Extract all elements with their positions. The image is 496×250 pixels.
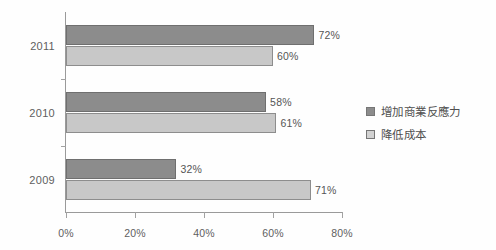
bar-value-label: 58%	[270, 96, 292, 108]
bar-value-label: 61%	[280, 117, 302, 129]
legend-item-0[interactable]: 增加商業反應力	[366, 103, 490, 119]
x-axis-tick	[342, 212, 343, 218]
category-group: 201172%60%	[66, 12, 342, 79]
legend-label: 增加商業反應力	[381, 103, 461, 119]
category-group: 200932%71%	[66, 146, 342, 213]
chart-legend: 增加商業反應力降低成本	[366, 103, 490, 149]
bar-value-label: 71%	[315, 184, 337, 196]
x-axis-tick-label: 20%	[124, 227, 146, 239]
bar-2010-series1[interactable]: 61%	[66, 113, 276, 133]
y-axis-category-label: 2009	[29, 174, 55, 186]
bar-2010-series0[interactable]: 58%	[66, 92, 266, 112]
bar-2009-series1[interactable]: 71%	[66, 180, 311, 200]
bar-value-label: 60%	[277, 50, 299, 62]
plot-area: 0%20%40%60%80%201172%60%201058%61%200932…	[65, 12, 342, 213]
legend-item-1[interactable]: 降低成本	[366, 126, 490, 142]
bar-value-label: 32%	[180, 163, 202, 175]
bar-2009-series0[interactable]: 32%	[66, 159, 176, 179]
x-axis-tick-label: 40%	[193, 227, 215, 239]
bar-2011-series1[interactable]: 60%	[66, 46, 273, 66]
x-axis-tick-label: 80%	[331, 227, 353, 239]
y-axis-category-label: 2011	[30, 40, 55, 52]
x-axis-tick-label: 0%	[58, 227, 74, 239]
bar-value-label: 72%	[318, 29, 340, 41]
category-group: 201058%61%	[66, 79, 342, 146]
y-axis-category-label: 2010	[29, 107, 55, 119]
x-axis-tick-label: 60%	[262, 227, 284, 239]
legend-label: 降低成本	[381, 126, 427, 142]
legend-swatch-icon	[366, 130, 375, 139]
legend-swatch-icon	[366, 107, 375, 116]
bar-chart-figure: 0%20%40%60%80%201172%60%201058%61%200932…	[0, 0, 496, 250]
bar-2011-series0[interactable]: 72%	[66, 25, 314, 45]
